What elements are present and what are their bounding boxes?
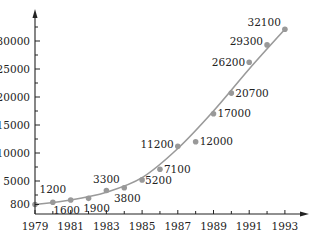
data-label: 3800 — [114, 192, 141, 204]
data-point — [175, 143, 181, 149]
data-point — [211, 111, 217, 117]
y-axis-arrow-icon — [33, 9, 38, 18]
data-point — [229, 90, 235, 96]
x-tick-label: 1981 — [57, 220, 84, 232]
data-point — [193, 139, 199, 145]
data-point — [139, 177, 145, 183]
data-point — [282, 26, 288, 32]
data-label: 20700 — [235, 87, 268, 99]
y-tick-label: 800 — [10, 198, 30, 210]
x-tick-label: 1985 — [129, 220, 156, 232]
y-tick-label: 10000 — [0, 147, 30, 159]
data-label: 32100 — [247, 16, 280, 28]
y-tick-label: 20000 — [0, 91, 30, 103]
data-label: 3300 — [93, 173, 120, 185]
y-tick-label: 5000 — [3, 175, 30, 187]
x-tick-label: 1993 — [272, 220, 299, 232]
data-point — [264, 42, 270, 48]
y-tick-label: 15000 — [0, 119, 30, 131]
x-tick-label: 1983 — [93, 220, 120, 232]
data-label: 1900 — [83, 202, 110, 214]
y-tick-label: 30000 — [0, 35, 30, 47]
data-label: 5200 — [145, 174, 172, 186]
data-label: 12000 — [200, 135, 233, 147]
data-point — [246, 59, 252, 65]
chart: 1979198119831985198719891991199380050001… — [0, 0, 313, 241]
data-label: 29300 — [230, 35, 263, 47]
data-point — [68, 197, 74, 203]
data-label: 17000 — [218, 107, 251, 119]
x-tick-label: 1987 — [164, 220, 191, 232]
data-labels: 1200160019003300380052007100112001200017… — [39, 16, 280, 216]
x-tick-label: 1989 — [200, 220, 227, 232]
data-point — [86, 196, 92, 202]
x-axis-arrow-icon — [300, 212, 309, 217]
x-tick-label: 1979 — [22, 220, 49, 232]
y-tick-label: 25000 — [0, 63, 30, 75]
data-point — [121, 185, 127, 191]
data-label: 1600 — [53, 204, 80, 216]
x-tick-label: 1991 — [236, 220, 263, 232]
data-label: 1200 — [39, 183, 66, 195]
data-label: 11200 — [140, 138, 173, 150]
data-point — [157, 166, 163, 172]
data-label: 26200 — [212, 56, 245, 68]
data-label: 7100 — [164, 163, 191, 175]
data-point — [104, 188, 110, 194]
